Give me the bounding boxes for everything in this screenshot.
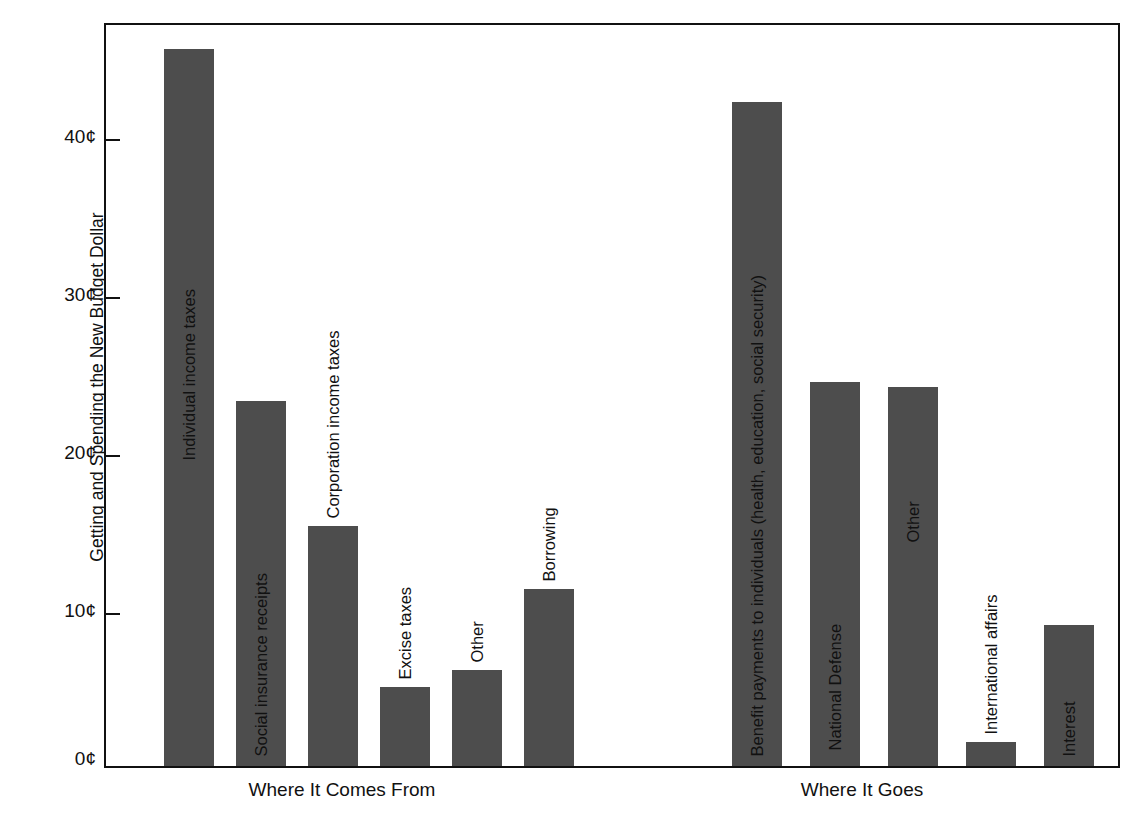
bar-label-benefit-payments-to-individuals: Benefit payments to individuals (health,… <box>749 274 766 756</box>
y-tick-label-40: 40¢ <box>16 126 96 148</box>
bar-individual-income-taxes[interactable]: Individual income taxes <box>164 49 214 766</box>
bar-label-excise-taxes: Excise taxes <box>397 586 414 679</box>
bar-other-outlays[interactable]: Other <box>888 387 938 766</box>
bar-borrowing[interactable]: Borrowing <box>524 589 574 766</box>
bar-label-corporation-income-taxes: Corporation income taxes <box>325 330 342 518</box>
budget-dollar-bar-chart: Getting and Spending the New Budget Doll… <box>0 0 1142 813</box>
y-tick-label-20: 20¢ <box>16 442 96 464</box>
bar-other-receipts[interactable]: Other <box>452 670 502 766</box>
bar-social-insurance-receipts[interactable]: Social insurance receipts <box>236 401 286 766</box>
bar-corporation-income-taxes[interactable]: Corporation income taxes <box>308 526 358 766</box>
bar-label-national-defense: National Defense <box>827 623 844 750</box>
bar-label-interest: Interest <box>1061 701 1078 756</box>
group-caption-where-it-comes-from: Where It Comes From <box>162 779 522 801</box>
y-tick-mark-10 <box>106 613 120 615</box>
y-tick-label-30: 30¢ <box>16 284 96 306</box>
bar-interest[interactable]: Interest <box>1044 625 1094 766</box>
bar-label-social-insurance-receipts: Social insurance receipts <box>253 573 270 756</box>
bar-label-borrowing: Borrowing <box>541 507 558 581</box>
bar-label-individual-income-taxes: Individual income taxes <box>181 288 198 460</box>
y-tick-label-10: 10¢ <box>16 600 96 622</box>
y-tick-mark-40 <box>106 139 120 141</box>
bar-national-defense[interactable]: National Defense <box>810 382 860 766</box>
bar-label-other-receipts: Other <box>469 621 486 662</box>
bar-excise-taxes[interactable]: Excise taxes <box>380 687 430 766</box>
bar-international-affairs[interactable]: International affairs <box>966 742 1016 766</box>
bar-label-other-outlays: Other <box>905 501 922 542</box>
y-tick-label-0: 0¢ <box>16 748 96 770</box>
y-tick-mark-30 <box>106 297 120 299</box>
group-caption-where-it-goes: Where It Goes <box>702 779 1022 801</box>
plot-area: Individual income taxes Social insurance… <box>104 23 1120 768</box>
bar-label-international-affairs: International affairs <box>983 594 1000 734</box>
bar-benefit-payments-to-individuals[interactable]: Benefit payments to individuals (health,… <box>732 102 782 766</box>
y-tick-mark-20 <box>106 455 120 457</box>
